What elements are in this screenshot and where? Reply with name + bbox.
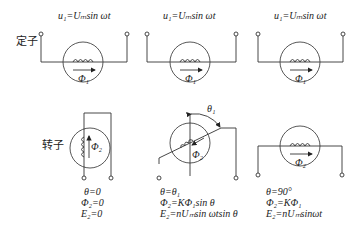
stator-2: u₁=Uₘsin ωt Φ₁ xyxy=(145,10,238,84)
rotor-1-flux: Φ₂ xyxy=(91,141,103,152)
terminal-icon xyxy=(234,176,238,180)
stator-1-equation: u₁=Uₘsin ωt xyxy=(58,10,111,21)
terminal-icon xyxy=(256,173,260,177)
terminal-icon xyxy=(340,173,344,177)
transformer-diagram: 定子 转子 u₁=Uₘsin ωt Φ₁ u₁=Uₘsin ωt Φ₁ u₁=U… xyxy=(0,0,358,233)
rotor-2-condition: E₂=nUₘsin ωtsin θ xyxy=(159,208,238,219)
rotor-2-flux: Φ₂ xyxy=(192,149,204,160)
rotor-1-condition: θ=0 xyxy=(84,186,101,197)
rotor-2-condition: θ=θ₁ xyxy=(160,186,180,197)
rotor-3-flux: Φ₂ xyxy=(295,157,307,168)
terminal-icon xyxy=(145,32,149,36)
rotor-3-condition: E₂=nUₘsinωt xyxy=(265,208,322,219)
terminal-icon xyxy=(125,32,129,36)
rotor-label: 转子 xyxy=(42,138,64,152)
terminal-icon xyxy=(82,176,86,180)
terminal-icon xyxy=(39,32,43,36)
rotor-2-angle: θ₁ xyxy=(207,103,215,114)
rotor-3: Φ₂ θ=90° Φ₂=KΦ₁ E₂=nUₘsinωt xyxy=(256,126,344,219)
stator-2-equation: u₁=Uₘsin ωt xyxy=(163,10,216,21)
rotor-3-condition: Φ₂=KΦ₁ xyxy=(266,197,302,208)
stator-1: u₁=Uₘsin ωt Φ₁ xyxy=(39,10,129,84)
rotor-3-condition: θ=90° xyxy=(266,186,292,197)
stator-3: u₁=Uₘsin ωt Φ₁ xyxy=(256,10,345,84)
stator-3-equation: u₁=Uₘsin ωt xyxy=(274,10,327,21)
stator-3-flux: Φ₁ xyxy=(295,73,306,84)
stator-2-flux: Φ₁ xyxy=(185,73,196,84)
stator-1-flux: Φ₁ xyxy=(78,73,89,84)
angle-arc-icon xyxy=(191,114,220,127)
rotor-1-condition: Φ₂=0 xyxy=(81,197,104,208)
rotor-2-condition: Φ₂=KΦ₁sin θ xyxy=(160,197,215,208)
terminal-icon xyxy=(109,176,113,180)
rotor-1-condition: E₂=0 xyxy=(80,208,102,219)
terminal-icon xyxy=(256,32,260,36)
rotor-1: Φ₂ θ=0 Φ₂=0 E₂=0 xyxy=(70,113,113,219)
terminal-icon xyxy=(157,176,161,180)
terminal-icon xyxy=(234,32,238,36)
rotor-2: Φ₂ θ₁ θ=θ₁ Φ₂=KΦ₁sin θ E₂=nUₘsin ωtsin θ xyxy=(157,103,238,219)
stator-label: 定子 xyxy=(16,34,38,48)
terminal-icon xyxy=(341,32,345,36)
